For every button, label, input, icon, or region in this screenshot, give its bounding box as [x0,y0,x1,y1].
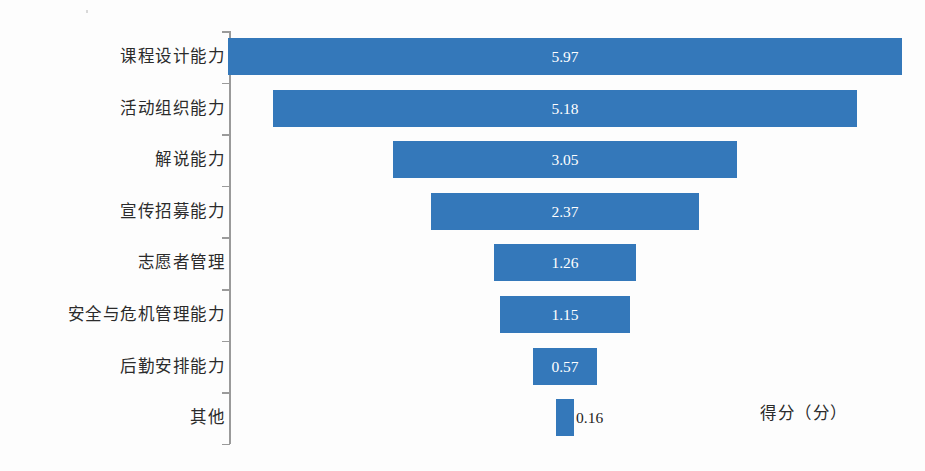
bar-value-label: 5.97 [228,38,901,75]
bar-container: 0.57 [0,341,925,393]
bar-row: 活动组织能力5.18 [0,83,925,135]
bar[interactable]: 3.05 [393,141,737,178]
value-axis-caption: 得分（分） [760,400,848,424]
funnel-chart: 课程设计能力5.97活动组织能力5.18解说能力3.05宣传招募能力2.37志愿… [0,0,925,471]
bar-value-label: 1.26 [494,244,636,281]
bar-container: 2.37 [0,186,925,238]
bar[interactable]: 0.57 [533,348,597,385]
bar-container: 1.15 [0,289,925,341]
bar-value-label: 0.57 [533,348,597,385]
axis-tick [222,444,230,446]
bar[interactable]: 5.18 [273,90,857,127]
bar-value-label: 2.37 [431,193,698,230]
bar-container: 5.18 [0,83,925,135]
bar-row: 安全与危机管理能力1.15 [0,289,925,341]
bar-value-label: 5.18 [273,90,857,127]
bar-row: 解说能力3.05 [0,134,925,186]
bar[interactable]: 2.37 [431,193,698,230]
bar-row: 后勤安排能力0.57 [0,341,925,393]
bar-container: 5.97 [0,31,925,83]
bar-row: 宣传招募能力2.37 [0,186,925,238]
bar[interactable]: 0.16 [556,399,574,436]
bar-value-label: 3.05 [393,141,737,178]
bar-value-label: 1.15 [500,296,630,333]
bar-row: 志愿者管理1.26 [0,237,925,289]
bar-row: 课程设计能力5.97 [0,31,925,83]
bar[interactable]: 5.97 [228,38,901,75]
bar-value-label: 0.16 [574,399,636,436]
bar[interactable]: 1.26 [494,244,636,281]
bar-container: 1.26 [0,237,925,289]
bar-container: 3.05 [0,134,925,186]
bar[interactable]: 1.15 [500,296,630,333]
